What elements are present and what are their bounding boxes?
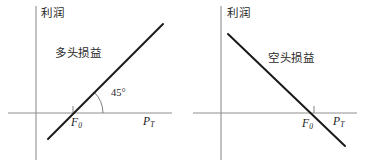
long-position-axes-svg [0, 0, 185, 167]
f0-label-short: F0 [302, 118, 313, 130]
short-position-axes-svg [185, 0, 369, 167]
futures-payoff-figure: 利润 多头损益 45° F0 PT 利润 空头损益 F0 PT [0, 0, 369, 167]
payoff-curve-label-short: 空头损益 [268, 53, 314, 65]
pt-symbol-short: P [333, 115, 340, 127]
pt-subscript-long: T [150, 120, 154, 129]
f0-label-long: F0 [71, 117, 82, 129]
panel-short-position: 利润 空头损益 F0 PT [185, 0, 369, 167]
y-axis-label-short: 利润 [227, 8, 250, 20]
angle-label-45-degrees: 45° [111, 88, 126, 99]
panel-long-position: 利润 多头损益 45° F0 PT [0, 0, 185, 167]
f0-subscript-long: 0 [78, 121, 82, 130]
angle-arc-long [94, 92, 103, 113]
y-axis-label-long: 利润 [41, 8, 64, 20]
f0-symbol-long: F [71, 116, 78, 128]
x-axis-label-short: PT [333, 116, 344, 128]
x-axis-label-long: PT [143, 116, 154, 128]
payoff-curve-label-long: 多头损益 [55, 48, 101, 60]
pt-symbol-long: P [143, 115, 150, 127]
f0-symbol-short: F [302, 117, 309, 129]
pt-subscript-short: T [340, 120, 344, 129]
f0-subscript-short: 0 [309, 122, 313, 131]
